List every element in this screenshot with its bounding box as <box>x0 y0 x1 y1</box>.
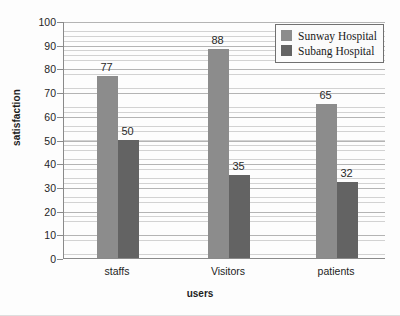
legend-label: Sunway Hospital <box>298 30 377 42</box>
bar-chart: satisfaction 0102030405060708090100 7750… <box>0 0 400 316</box>
y-axis-tick-label: 30 <box>16 182 56 194</box>
x-axis-tick-label: staffs <box>105 265 130 277</box>
x-axis-tick-label: patients <box>318 265 355 277</box>
legend-item: Sunway Hospital <box>281 28 377 43</box>
x-axis-title: users <box>0 288 400 299</box>
bar <box>229 175 250 258</box>
bar <box>118 140 139 259</box>
bar-data-label: 88 <box>211 34 223 46</box>
y-axis-tick-mark <box>57 259 63 260</box>
legend: Sunway HospitalSubang Hospital <box>275 24 384 63</box>
bar <box>337 182 358 258</box>
y-axis-tick-label: 10 <box>16 229 56 241</box>
y-axis-tick-label: 100 <box>16 16 56 28</box>
bar-data-label: 35 <box>232 160 244 172</box>
y-axis-tick-label: 70 <box>16 87 56 99</box>
legend-color-swatch <box>281 30 292 41</box>
y-axis-tick-label: 50 <box>16 135 56 147</box>
bar <box>97 76 118 258</box>
y-axis-tick-label: 0 <box>16 253 56 265</box>
y-axis-tick-label: 40 <box>16 158 56 170</box>
y-axis-tick-label: 60 <box>16 111 56 123</box>
bar-data-label: 32 <box>340 167 352 179</box>
legend-color-swatch <box>281 45 292 56</box>
y-axis-tick-label: 20 <box>16 206 56 218</box>
legend-label: Subang Hospital <box>298 45 374 57</box>
y-axis-tick-label: 80 <box>16 63 56 75</box>
bar <box>208 49 229 258</box>
bar-data-label: 65 <box>319 89 331 101</box>
bar-data-label: 50 <box>121 125 133 137</box>
bar <box>316 104 337 258</box>
y-axis-tick-label: 90 <box>16 40 56 52</box>
gridline <box>64 22 385 23</box>
x-axis-tick-label: Visitors <box>211 265 245 277</box>
legend-item: Subang Hospital <box>281 43 377 58</box>
bar-data-label: 77 <box>100 61 112 73</box>
